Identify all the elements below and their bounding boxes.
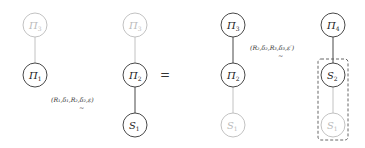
tilde-icon: ∼ [79, 104, 84, 111]
node-s1-right1: S1 [221, 113, 245, 137]
node-pi2-right: Π2 [221, 63, 245, 87]
node-pi3-right: Π3 [221, 13, 245, 37]
equals-sign: = [160, 68, 170, 82]
node-s2: S2 [321, 63, 345, 87]
tree-diagram: Π3 Π1 Π3 Π2 S1 (R₁,δ₁,R₂,δ₂,ε) ∼ = Π3 Π2… [0, 0, 365, 148]
node-pi2-left: Π2 [123, 63, 147, 87]
node-s1-left: S1 [123, 113, 147, 137]
node-pi3-left1: Π3 [23, 13, 47, 37]
node-pi1: Π1 [23, 63, 47, 87]
node-s1-right2: S1 [321, 113, 345, 137]
relation-label-left: (R₁,δ₁,R₂,δ₂,ε) [51, 96, 94, 103]
node-pi3-left2: Π3 [123, 13, 147, 37]
tilde-icon: ∼ [278, 52, 283, 59]
node-pi4: Π4 [321, 13, 345, 37]
relation-label-right: (R₂,δ₂,R₃,δ₃,ε′) [250, 44, 295, 51]
